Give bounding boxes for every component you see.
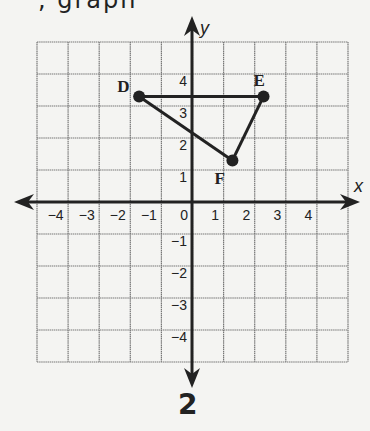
svg-text:2: 2 (242, 207, 250, 223)
svg-text:3: 3 (179, 105, 187, 121)
svg-text:−2: −2 (110, 207, 126, 223)
svg-text:y: y (198, 18, 210, 38)
svg-text:F: F (214, 169, 224, 188)
svg-text:E: E (254, 71, 265, 90)
svg-text:2: 2 (179, 137, 187, 153)
tick-labels: −4−3−2−1012344321−1−2−3−4 (48, 73, 313, 345)
svg-text:4: 4 (179, 73, 187, 89)
svg-text:−3: −3 (79, 207, 95, 223)
svg-text:−3: −3 (171, 297, 187, 313)
coordinate-plane: xy −4−3−2−1012344321−1−2−3−4 DEF (0, 0, 370, 431)
figure-number: 2 (178, 388, 197, 421)
svg-text:1: 1 (211, 207, 219, 223)
svg-text:D: D (117, 77, 129, 96)
svg-text:4: 4 (305, 207, 313, 223)
svg-text:−1: −1 (171, 233, 187, 249)
axes: xy (14, 16, 364, 388)
svg-text:x: x (353, 176, 364, 196)
svg-text:−2: −2 (171, 265, 187, 281)
svg-text:3: 3 (274, 207, 282, 223)
svg-text:−4: −4 (48, 207, 64, 223)
svg-text:−4: −4 (171, 329, 187, 345)
svg-text:−1: −1 (141, 207, 157, 223)
svg-text:1: 1 (179, 169, 187, 185)
svg-text:0: 0 (180, 207, 188, 223)
